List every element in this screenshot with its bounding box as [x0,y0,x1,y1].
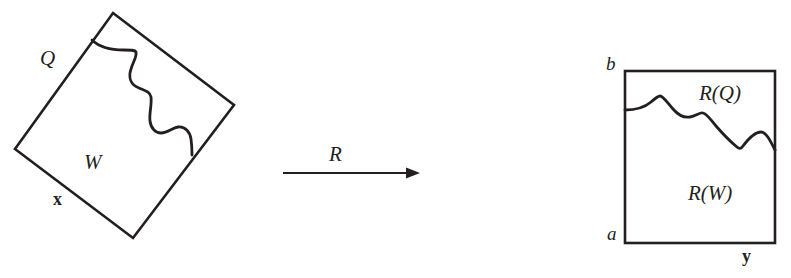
label-a-value: a [607,224,617,243]
figure-vector-graphics [0,0,791,278]
arrow-head [406,168,420,179]
label-R-of-Q: R(Q) [699,83,741,104]
figure-container: Q W x R b a y R(Q) R(W) [0,0,791,278]
label-R-of-W: R(W) [688,183,732,204]
label-R-arrow: R [329,144,342,165]
label-x-axis: x [53,190,62,208]
label-y-axis: y [742,247,751,265]
label-b-value: b [606,54,616,73]
label-W: W [84,152,102,173]
arrow-group [283,168,420,179]
label-Q: Q [40,48,55,69]
